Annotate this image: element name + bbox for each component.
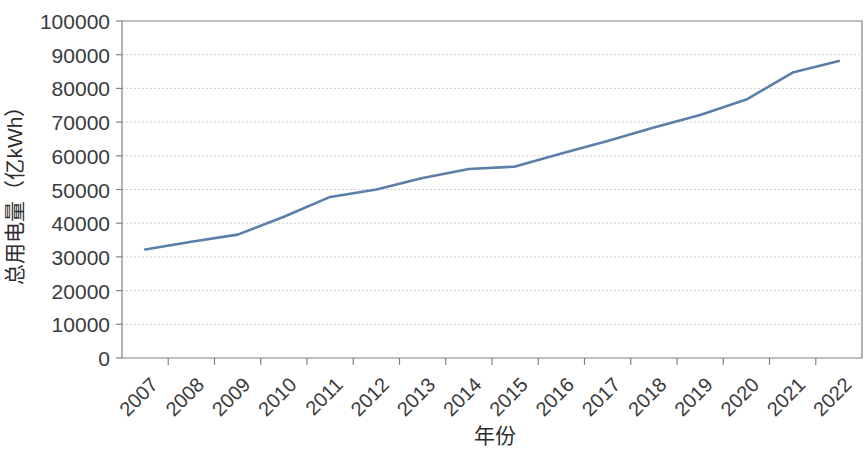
x-axis-tick-labels-group: 2007200820092010201120122013201420152016… <box>115 373 856 420</box>
x-axis-tick-label: 2011 <box>301 373 347 419</box>
x-axis-ticks-group <box>168 358 816 365</box>
x-axis-tick-label: 2008 <box>161 373 208 420</box>
y-axis-tick-label: 10000 <box>52 313 110 336</box>
series-line <box>145 61 839 249</box>
x-axis-tick-label: 2016 <box>531 373 578 420</box>
y-axis-tick-labels-group: 0100002000030000400005000060000700008000… <box>40 10 110 370</box>
x-axis-tick-label: 2019 <box>670 373 717 420</box>
x-axis-tick-label: 2021 <box>762 373 809 420</box>
x-axis-tick-label: 2014 <box>439 373 486 420</box>
x-axis-tick-label: 2015 <box>485 373 532 420</box>
y-axis-title: 总用电量（亿kWh） <box>3 96 26 285</box>
y-axis-tick-label: 50000 <box>52 179 110 202</box>
y-axis-ticks-group <box>116 21 122 358</box>
x-axis-tick-label: 2020 <box>716 373 763 420</box>
x-axis-tick-label: 2010 <box>254 373 301 420</box>
x-axis-tick-label: 2017 <box>577 373 624 420</box>
y-axis-tick-label: 70000 <box>52 111 110 134</box>
y-axis-tick-label: 30000 <box>52 246 110 269</box>
y-axis-tick-label: 100000 <box>40 10 110 33</box>
x-axis-tick-label: 2007 <box>115 373 162 420</box>
x-axis-tick-label: 2009 <box>207 373 254 420</box>
line-chart: 0100002000030000400005000060000700008000… <box>0 0 868 452</box>
y-axis-tick-label: 0 <box>98 347 110 370</box>
y-axis-tick-label: 80000 <box>52 77 110 100</box>
series-group <box>145 61 839 249</box>
x-axis-tick-label: 2018 <box>624 373 671 420</box>
x-axis-title: 年份 <box>474 424 516 447</box>
y-axis-tick-label: 60000 <box>52 145 110 168</box>
x-axis-tick-label: 2022 <box>809 373 856 420</box>
y-axis-tick-label: 90000 <box>52 44 110 67</box>
gridlines-group <box>122 55 862 325</box>
y-axis-tick-label: 40000 <box>52 212 110 235</box>
x-axis-tick-label: 2013 <box>392 373 439 420</box>
y-axis-tick-label: 20000 <box>52 280 110 303</box>
x-axis-tick-label: 2012 <box>346 373 393 420</box>
chart-canvas: 0100002000030000400005000060000700008000… <box>0 0 868 452</box>
